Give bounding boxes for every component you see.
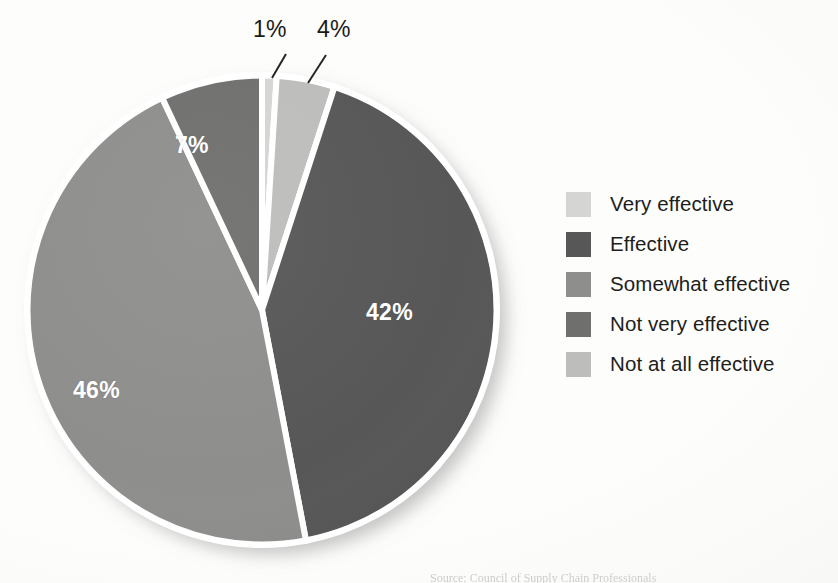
pie-chart-figure: 42% 46% 7% 1% 4% Very effective Effectiv… bbox=[0, 0, 838, 583]
legend-swatch-icon bbox=[566, 192, 591, 217]
slice-value-label-somewhat-effective: 46% bbox=[73, 377, 120, 404]
legend-item-label: Not at all effective bbox=[610, 354, 775, 375]
chart-legend: Very effective Effective Somewhat effect… bbox=[566, 184, 828, 384]
legend-item-label: Very effective bbox=[610, 194, 734, 215]
legend-swatch-icon bbox=[566, 272, 591, 297]
legend-item-effective[interactable]: Effective bbox=[566, 224, 828, 264]
figure-caption-partial: Source: Council of Supply Chain Professi… bbox=[430, 571, 830, 583]
legend-item-somewhat-effective[interactable]: Somewhat effective bbox=[566, 264, 828, 304]
slice-value-label-not-very-effective: 7% bbox=[175, 132, 209, 159]
legend-item-label: Somewhat effective bbox=[610, 274, 790, 295]
legend-item-not-very-effective[interactable]: Not very effective bbox=[566, 304, 828, 344]
slice-value-label-very-effective: 1% bbox=[253, 16, 287, 43]
legend-item-not-at-all-effective[interactable]: Not at all effective bbox=[566, 344, 828, 384]
slice-value-label-not-at-all-effective: 4% bbox=[317, 16, 351, 43]
legend-swatch-icon bbox=[566, 232, 591, 257]
legend-item-label: Effective bbox=[610, 234, 689, 255]
legend-item-label: Not very effective bbox=[610, 314, 770, 335]
legend-swatch-icon bbox=[566, 312, 591, 337]
legend-swatch-icon bbox=[566, 352, 591, 377]
legend-item-very-effective[interactable]: Very effective bbox=[566, 184, 828, 224]
slice-value-label-effective: 42% bbox=[366, 299, 413, 326]
